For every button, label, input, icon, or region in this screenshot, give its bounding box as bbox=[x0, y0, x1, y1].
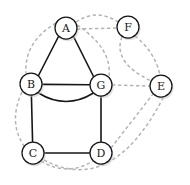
node-c[interactable]: C bbox=[22, 142, 46, 166]
node-layer: AFBGECD bbox=[20, 16, 174, 166]
node-label-e: E bbox=[157, 80, 165, 93]
dashed-edge-b-c-arc bbox=[15, 92, 24, 146]
node-label-a: A bbox=[61, 22, 71, 35]
node-label-d: D bbox=[97, 147, 106, 160]
solid-edge-a-g bbox=[74, 37, 94, 77]
node-d[interactable]: D bbox=[90, 142, 114, 166]
graph-figure: AFBGECD bbox=[0, 0, 190, 185]
dashed-edge-d-e bbox=[111, 94, 153, 148]
solid-edge-a-b bbox=[39, 37, 59, 76]
node-e[interactable]: E bbox=[150, 75, 174, 99]
graph-canvas: AFBGECD bbox=[0, 0, 190, 185]
solid-edge-b-c bbox=[31, 95, 32, 142]
node-label-f: F bbox=[124, 21, 132, 34]
node-b[interactable]: B bbox=[20, 73, 44, 97]
dashed-edge-a-g-arc bbox=[77, 25, 109, 76]
solid-edge-b-g2 bbox=[39, 93, 94, 102]
node-g[interactable]: G bbox=[90, 74, 114, 98]
solid-edge-layer bbox=[31, 37, 101, 154]
dashed-edge-a-f-1 bbox=[76, 15, 118, 22]
node-label-g: G bbox=[97, 79, 106, 92]
node-label-c: C bbox=[29, 147, 37, 160]
dashed-edge-g-e bbox=[112, 85, 150, 86]
dashed-edge-f-e-2 bbox=[135, 36, 160, 75]
node-label-b: B bbox=[27, 78, 35, 91]
dashed-edge-f-e-1 bbox=[120, 37, 151, 81]
dashed-edge-a-f-2 bbox=[77, 28, 117, 29]
node-f[interactable]: F bbox=[117, 16, 141, 40]
dashed-edge-a-b-arc bbox=[26, 23, 56, 73]
